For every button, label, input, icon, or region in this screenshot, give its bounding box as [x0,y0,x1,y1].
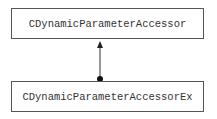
class-box-derived: CDynamicParameterAccessorEx [11,81,204,112]
class-label-derived: CDynamicParameterAccessorEx [22,91,192,103]
arrowhead-icon [97,41,103,48]
